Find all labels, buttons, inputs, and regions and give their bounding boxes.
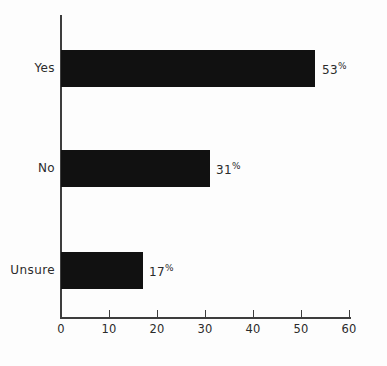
x-axis-tick [253,310,254,317]
y-axis-category-label: No [0,161,55,175]
x-axis-tick [61,310,62,317]
percent-sign: % [165,263,174,273]
x-axis-tick [349,310,350,317]
x-axis-tick [157,310,158,317]
x-axis-tick [109,310,110,317]
bar-chart: 0 10 20 30 40 50 60 Yes No Unsure 53% 31… [0,0,387,366]
bar-value-label-unsure: 17% [149,263,173,279]
bar-unsure [61,252,143,289]
x-axis-tick-label: 20 [149,322,164,336]
bar-no [61,150,210,187]
bar-yes [61,50,315,87]
x-axis-tick-label: 50 [293,322,308,336]
x-axis-tick-label: 10 [101,322,116,336]
percent-sign: % [232,161,241,171]
x-axis-line [60,317,351,319]
x-axis-tick-label: 60 [341,322,356,336]
bar-value-number: 31 [216,163,232,177]
x-axis-tick [301,310,302,317]
x-axis-tick [205,310,206,317]
bar-value-number: 17 [149,265,165,279]
y-axis-category-label: Unsure [0,263,55,277]
bar-value-label-no: 31% [216,161,240,177]
bar-value-number: 53 [322,63,338,77]
x-axis-tick-label: 40 [245,322,260,336]
y-axis-category-label: Yes [0,61,55,75]
percent-sign: % [338,61,347,71]
x-axis-tick-label: 0 [57,322,65,336]
bar-value-label-yes: 53% [322,61,346,77]
x-axis-tick-label: 30 [197,322,212,336]
